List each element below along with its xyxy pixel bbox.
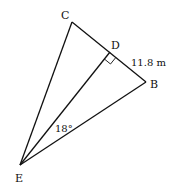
label-B: B [150,78,158,91]
label-D: D [111,39,120,52]
side-length-DB: 11.8 m [131,57,166,68]
triangle-diagram: C D B E 11.8 m 18° [0,0,176,193]
segment-CB [72,22,146,82]
right-angle-marker [104,58,115,65]
label-E: E [15,172,23,185]
angle-label-E: 18° [55,123,73,134]
segment-CE [20,22,72,165]
label-C: C [61,9,69,22]
segment-DE [20,52,110,165]
segment-BE [20,82,146,165]
